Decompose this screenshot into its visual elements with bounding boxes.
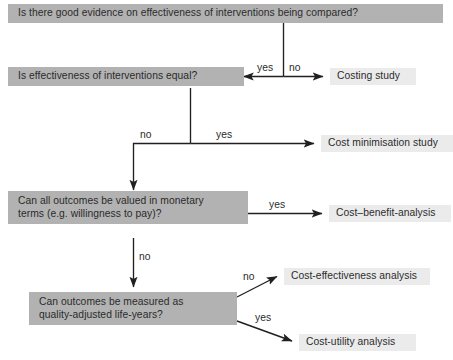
question-box-qaly[interactable]: Can outcomes be measured as quality-adju… <box>29 292 237 325</box>
flowchart-canvas: Is there good evidence on effectiveness … <box>0 0 453 360</box>
edge-label-qaly-no: no <box>243 271 254 282</box>
edge-label-monetary-yes: yes <box>269 199 285 210</box>
outcome-box-cost-utility-analysis-label: Cost-utility analysis <box>306 336 408 349</box>
question-box-effectiveness-equal[interactable]: Is effectiveness of interventions equal? <box>8 67 244 86</box>
question-box-effectiveness-equal-line-1: Is effectiveness of interventions equal? <box>18 70 235 83</box>
edge-label-qaly-yes: yes <box>255 312 271 323</box>
outcome-box-cost-benefit-analysis[interactable]: Cost–benefit-analysis <box>329 205 451 222</box>
outcome-box-costing-study-label: Costing study <box>337 70 408 83</box>
connector-equal-no <box>134 144 191 191</box>
edge-label-evidence-no: no <box>289 62 300 73</box>
outcome-box-cost-effectiveness-analysis[interactable]: Cost-effectiveness analysis <box>284 268 430 285</box>
edge-label-monetary-no: no <box>139 251 150 262</box>
outcome-box-cost-minimisation-study[interactable]: Cost minimisation study <box>321 135 453 152</box>
edge-label-evidence-yes: yes <box>257 62 273 73</box>
question-box-evidence[interactable]: Is there good evidence on effectiveness … <box>8 4 443 23</box>
connector-qaly-yes <box>237 321 292 341</box>
outcome-box-cost-benefit-analysis-label: Cost–benefit-analysis <box>336 207 443 220</box>
outcome-box-costing-study[interactable]: Costing study <box>330 68 416 85</box>
outcome-box-cost-effectiveness-analysis-label: Cost-effectiveness analysis <box>291 270 422 283</box>
question-box-monetary-terms-line-2: terms (e.g. willingness to pay)? <box>18 208 239 221</box>
outcome-box-cost-minimisation-study-label: Cost minimisation study <box>328 137 445 150</box>
question-box-qaly-line-2: quality-adjusted life-years? <box>39 309 228 322</box>
outcome-box-cost-utility-analysis[interactable]: Cost-utility analysis <box>299 334 416 351</box>
edge-label-equal-no: no <box>140 129 151 140</box>
edge-label-equal-yes: yes <box>216 129 232 140</box>
question-box-qaly-line-1: Can outcomes be measured as <box>39 296 228 309</box>
question-box-monetary-terms-line-1: Can all outcomes be valued in monetary <box>18 195 239 208</box>
question-box-monetary-terms[interactable]: Can all outcomes be valued in monetary t… <box>8 191 248 224</box>
question-box-evidence-line-1: Is there good evidence on effectiveness … <box>18 7 434 20</box>
